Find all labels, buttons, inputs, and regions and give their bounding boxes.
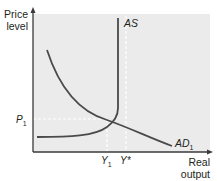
ad-label-main: AD [174,137,190,149]
plot-background [33,14,210,152]
y-axis-title-line2: level [6,20,28,32]
p1-label-sub: 1 [23,120,27,127]
x-axis-title-line2: output [181,168,210,180]
y-axis-arrow-icon [31,7,36,13]
x-axis-title-line1: Real [188,156,210,168]
p1-label: P1 [16,114,27,127]
as-ad-diagram: Price level Real output AS AD1 P1 Y1 Y* [0,0,217,181]
y-axis-title-line1: Price [4,8,28,20]
y1-label: Y1 [101,155,112,168]
ad-label-sub: 1 [190,144,194,151]
y1-label-sub: 1 [108,161,112,168]
as-label: AS [123,17,138,29]
y-star-label: Y* [120,155,132,166]
